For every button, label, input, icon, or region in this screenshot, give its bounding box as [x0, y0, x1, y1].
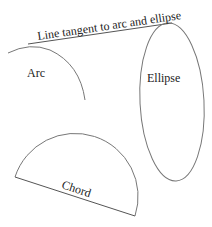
semicircle-arc	[15, 133, 138, 216]
ellipse-shape	[136, 21, 208, 182]
arc-shape	[8, 47, 85, 100]
ellipse-label: Ellipse	[147, 71, 180, 85]
arc-label: Arc	[27, 66, 45, 80]
diagram-canvas: Line tangent to arc and ellipse Arc Elli…	[0, 0, 212, 227]
